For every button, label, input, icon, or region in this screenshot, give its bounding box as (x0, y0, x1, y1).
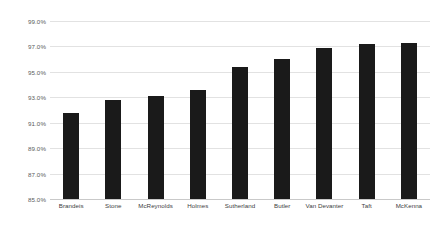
y-tick-label: 89.0% (2, 145, 46, 152)
bar-slot (303, 21, 345, 199)
y-tick-label: 99.0% (2, 18, 46, 25)
bar[interactable] (232, 67, 248, 199)
bar-slot (219, 21, 261, 199)
y-tick-label: 87.0% (2, 170, 46, 177)
bar-slot (50, 21, 92, 199)
y-tick-label: 85.0% (2, 196, 46, 203)
bar[interactable] (316, 48, 332, 199)
y-tick-label: 97.0% (2, 43, 46, 50)
x-axis: BrandeisStoneMcReynoldsHolmesSutherlandB… (50, 202, 430, 216)
bar-slot (134, 21, 176, 199)
bar-slot (261, 21, 303, 199)
bar[interactable] (359, 44, 375, 199)
bar[interactable] (274, 59, 290, 199)
y-tick-label: 95.0% (2, 68, 46, 75)
bar-slot (388, 21, 430, 199)
x-tick-label: McKenna (379, 202, 434, 209)
bar-slot (177, 21, 219, 199)
bars-layer (50, 21, 430, 199)
axis-baseline (50, 199, 430, 200)
bar[interactable] (63, 113, 79, 199)
bar[interactable] (401, 43, 417, 199)
bar-chart: 99.0%97.0%95.0%93.0%91.0%89.0%87.0%85.0%… (0, 0, 434, 236)
y-tick-label: 93.0% (2, 94, 46, 101)
bar[interactable] (190, 90, 206, 199)
y-tick-label: 91.0% (2, 119, 46, 126)
bar-slot (92, 21, 134, 199)
y-axis: 99.0%97.0%95.0%93.0%91.0%89.0%87.0%85.0% (0, 21, 46, 199)
bar[interactable] (148, 96, 164, 199)
bar[interactable] (105, 100, 121, 199)
bar-slot (346, 21, 388, 199)
